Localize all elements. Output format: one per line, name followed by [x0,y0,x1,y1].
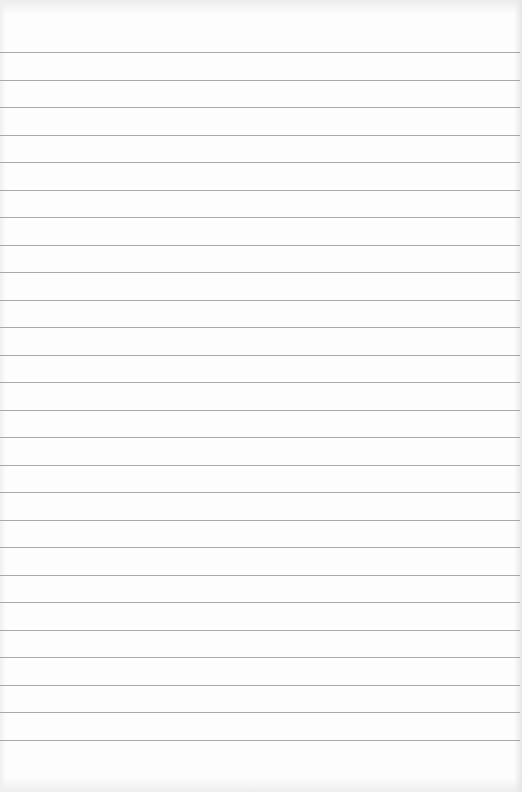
ruled-line [0,190,520,191]
ruled-line [0,575,520,576]
ruled-line [0,685,520,686]
ruled-line [0,740,520,741]
ruled-line [0,52,520,53]
ruled-line [0,135,520,136]
ruled-line [0,437,520,438]
ruled-line [0,712,520,713]
ruled-line [0,300,520,301]
ruled-line [0,465,520,466]
ruled-line [0,630,520,631]
ruled-line [0,520,520,521]
ruled-line [0,382,520,383]
ruled-line [0,602,520,603]
ruled-line [0,107,520,108]
ruled-line [0,327,520,328]
ruled-line [0,272,520,273]
ruled-paper-sheet [0,0,522,792]
ruled-line [0,547,520,548]
paper-edge-shadow-left [0,0,6,792]
ruled-line [0,80,520,81]
ruled-line [0,245,520,246]
paper-edge-shadow-top [0,0,522,14]
paper-edge-shadow-right [514,0,522,792]
ruled-line [0,410,520,411]
paper-edge-shadow-bottom [0,778,522,792]
ruled-line [0,355,520,356]
ruled-line [0,492,520,493]
ruled-line [0,162,520,163]
ruled-line [0,217,520,218]
ruled-line [0,657,520,658]
